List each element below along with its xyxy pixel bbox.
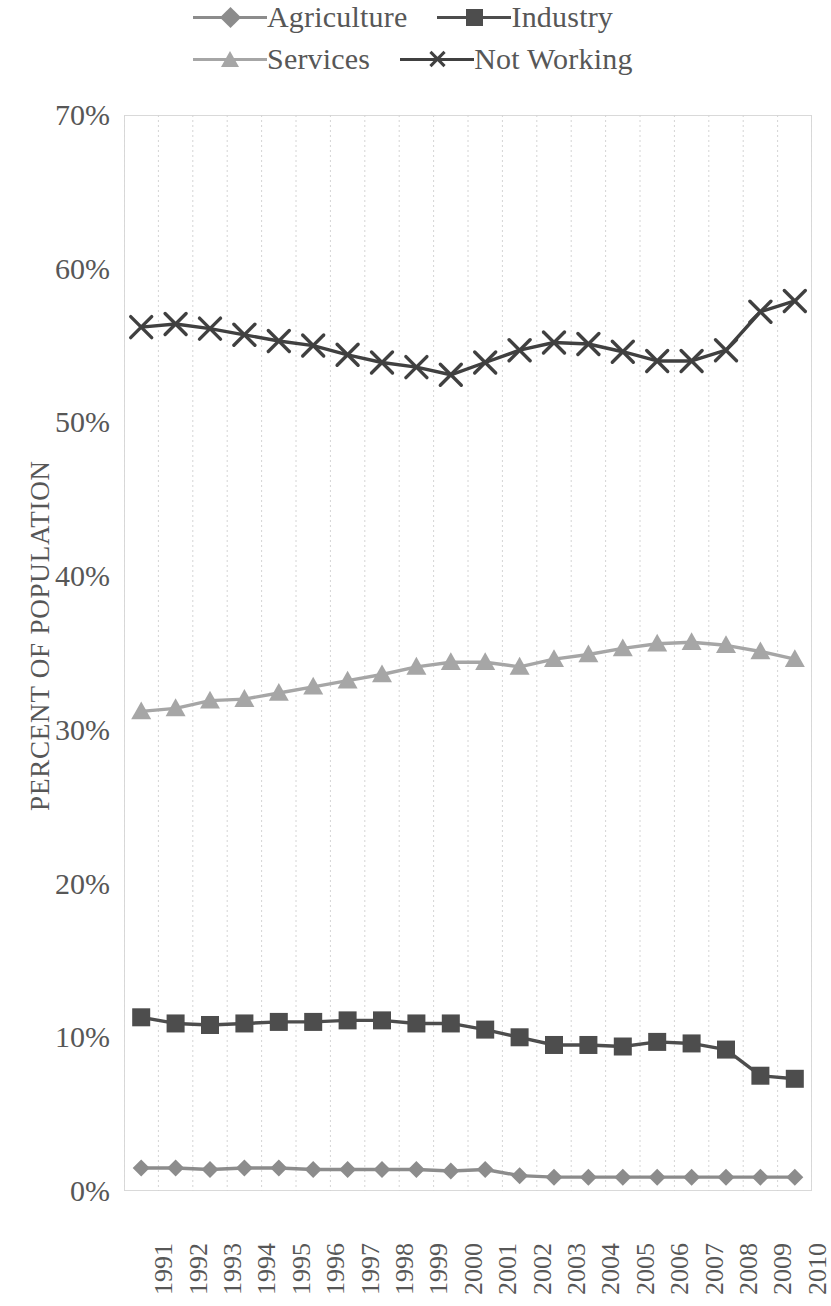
data-point-marker <box>614 1038 632 1056</box>
data-point-marker <box>132 1008 150 1026</box>
y-tick-label: 0% <box>0 1176 110 1206</box>
data-point-marker <box>339 1011 357 1029</box>
x-tick-label: 1993 <box>220 1243 246 1295</box>
data-point-marker <box>614 1169 631 1186</box>
data-point-marker <box>786 1070 804 1088</box>
plot-area <box>124 115 812 1191</box>
data-point-marker <box>270 1013 288 1031</box>
x-tick-label: 2002 <box>530 1243 556 1295</box>
data-point-marker <box>270 1159 287 1176</box>
data-point-marker <box>546 1169 563 1186</box>
data-point-marker <box>201 1016 219 1034</box>
data-point-marker <box>374 1161 391 1178</box>
data-point-marker <box>751 1067 769 1085</box>
y-tick-label: 20% <box>0 869 110 899</box>
data-point-marker <box>717 1041 735 1059</box>
y-tick-label: 70% <box>0 100 110 130</box>
data-point-marker <box>716 340 737 361</box>
chart-canvas <box>124 115 812 1191</box>
x-tick-label: 2005 <box>633 1243 659 1295</box>
x-tick-label: 2004 <box>598 1243 624 1295</box>
data-point-marker <box>235 1014 253 1032</box>
data-point-marker <box>648 1033 666 1051</box>
data-point-marker <box>752 1169 769 1186</box>
data-point-marker <box>373 1011 391 1029</box>
data-point-marker <box>579 1036 597 1054</box>
x-tick-label: 2006 <box>667 1243 693 1295</box>
data-point-marker <box>408 1161 425 1178</box>
x-tick-label: 2009 <box>770 1243 796 1295</box>
x-tick-label: 1998 <box>392 1243 418 1295</box>
data-point-marker <box>476 1021 494 1039</box>
data-point-marker <box>511 1028 529 1046</box>
y-tick-label: 50% <box>0 407 110 437</box>
data-point-marker <box>580 1169 597 1186</box>
data-point-marker <box>167 1014 185 1032</box>
data-point-marker <box>475 352 496 373</box>
x-tick-label: 1992 <box>186 1243 212 1295</box>
y-tick-label: 30% <box>0 715 110 745</box>
x-tick-label: 2007 <box>702 1243 728 1295</box>
x-tick-label: 1999 <box>426 1243 452 1295</box>
x-tick-label: 1997 <box>358 1243 384 1295</box>
x-tick-label: 2000 <box>461 1243 487 1295</box>
x-tick-label: 1991 <box>151 1243 177 1295</box>
data-point-marker <box>786 1169 803 1186</box>
y-tick-label: 10% <box>0 1022 110 1052</box>
data-point-marker <box>236 1159 253 1176</box>
x-tick-label: 1995 <box>289 1243 315 1295</box>
x-tick-label: 1994 <box>254 1243 280 1295</box>
data-point-marker <box>339 1161 356 1178</box>
data-point-marker <box>511 1167 528 1184</box>
data-point-marker <box>442 1163 459 1180</box>
x-tick-label: 2010 <box>805 1243 831 1295</box>
x-tick-label: 2003 <box>564 1243 590 1295</box>
data-point-marker <box>545 1036 563 1054</box>
data-point-marker <box>304 1013 322 1031</box>
data-point-marker <box>683 1034 701 1052</box>
data-point-marker <box>718 1169 735 1186</box>
y-tick-label: 40% <box>0 561 110 591</box>
data-point-marker <box>649 1169 666 1186</box>
data-point-marker <box>202 1161 219 1178</box>
x-tick-label: 2001 <box>495 1243 521 1295</box>
data-point-marker <box>442 1014 460 1032</box>
y-tick-label: 60% <box>0 254 110 284</box>
data-point-marker <box>683 1169 700 1186</box>
data-point-marker <box>784 290 805 311</box>
data-point-marker <box>407 1014 425 1032</box>
data-point-marker <box>305 1161 322 1178</box>
data-point-marker <box>133 1159 150 1176</box>
data-point-marker <box>477 1161 494 1178</box>
x-tick-label: 2008 <box>736 1243 762 1295</box>
data-point-marker <box>167 1159 184 1176</box>
data-point-marker <box>750 301 771 322</box>
x-tick-label: 1996 <box>323 1243 349 1295</box>
